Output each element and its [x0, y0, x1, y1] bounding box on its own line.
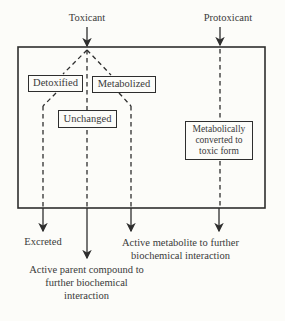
path-from-metabolized-bend: [119, 93, 131, 106]
active-metabolite-label: Active metabolite to further biochemical…: [112, 237, 249, 263]
toxicant-flow-diagram: Toxicant Protoxicant Detoxified Metaboli…: [0, 0, 285, 321]
path-to-metabolized: [87, 50, 111, 75]
protoxicant-label: Protoxicant: [188, 12, 268, 25]
metabolically-converted-box: Metabolically converted to toxic form: [185, 121, 253, 160]
path-from-detoxified-bend: [43, 93, 56, 106]
detoxified-box: Detoxified: [28, 75, 83, 92]
unchanged-box: Unchanged: [58, 110, 117, 128]
path-to-detoxified: [63, 50, 87, 74]
active-parent-label: Active parent compound to further bioche…: [24, 264, 149, 302]
toxicant-label: Toxicant: [47, 12, 127, 25]
excreted-label: Excreted: [13, 236, 73, 249]
metabolized-box: Metabolized: [92, 76, 156, 93]
